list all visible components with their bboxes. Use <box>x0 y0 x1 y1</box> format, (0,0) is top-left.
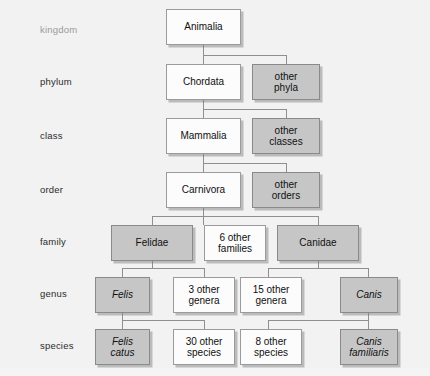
node-line1: Felis <box>112 289 133 300</box>
node-line2: species <box>187 347 221 358</box>
connector-genus-other-felidae-drop <box>204 268 205 277</box>
node-phylum-other[interactable]: other phyla <box>252 64 320 100</box>
connector-family-other-drop <box>203 216 204 225</box>
connector-canidae-bus <box>268 268 368 269</box>
node-line2: orders <box>272 190 300 201</box>
connector-genus-canis-drop <box>368 268 369 277</box>
connector-order-carnivora-drop <box>203 163 204 172</box>
node-line1: 30 other <box>186 336 223 347</box>
node-line1: Chordata <box>183 76 224 87</box>
connector-order-other-drop <box>286 163 287 172</box>
node-line1: other <box>275 179 298 190</box>
rank-label-phylum: phylum <box>40 76 72 87</box>
node-line1: Canidae <box>299 237 336 248</box>
rank-label-genus: genus <box>40 288 67 299</box>
connector-phylum-other-drop <box>286 55 287 64</box>
rank-label-kingdom: kingdom <box>40 24 77 35</box>
node-genus-felis[interactable]: Felis <box>95 277 150 313</box>
rank-label-family: family <box>40 236 66 247</box>
connector-phylum-chordata-drop <box>203 55 204 64</box>
node-species-canis-familiaris[interactable]: Canis familiaris <box>340 329 398 365</box>
connector-family-felidae-drop <box>152 216 153 225</box>
connector-order-bus <box>203 163 286 164</box>
node-line1: Canis <box>356 336 382 347</box>
node-family-felidae[interactable]: Felidae <box>111 225 193 261</box>
rank-label-species: species <box>40 340 74 351</box>
node-line1: Felis <box>112 336 133 347</box>
node-species-other-canis[interactable]: 8 other species <box>240 329 302 365</box>
connector-class-stem <box>203 154 204 163</box>
connector-canis-stem <box>368 313 369 320</box>
node-order-other[interactable]: other orders <box>252 172 320 208</box>
node-order-carnivora[interactable]: Carnivora <box>166 172 241 208</box>
node-line2: species <box>254 347 288 358</box>
rank-label-class: class <box>40 130 63 141</box>
connector-felidae-stem <box>152 261 153 268</box>
node-line1: other <box>275 125 298 136</box>
node-genus-other-felidae[interactable]: 3 other genera <box>173 277 235 313</box>
node-line1: Animalia <box>184 21 222 32</box>
connector-species-felis-catus-drop <box>122 320 123 329</box>
node-family-other[interactable]: 6 other families <box>204 225 266 261</box>
connector-felis-bus <box>122 320 204 321</box>
connector-kingdom-stem <box>203 45 204 55</box>
connector-family-canidae-drop <box>318 216 319 225</box>
node-line1: 3 other <box>188 284 219 295</box>
node-line2: families <box>218 243 252 254</box>
node-phylum-chordata[interactable]: Chordata <box>166 64 241 100</box>
node-line1: Felidae <box>136 237 169 248</box>
connector-species-other-canis-drop <box>268 320 269 329</box>
connector-phylum-stem <box>203 100 204 109</box>
node-species-other-felis[interactable]: 30 other species <box>173 329 235 365</box>
connector-genus-other-canidae-drop <box>268 268 269 277</box>
connector-class-other-drop <box>286 109 287 118</box>
node-genus-other-canidae[interactable]: 15 other genera <box>240 277 302 313</box>
node-genus-canis[interactable]: Canis <box>340 277 398 313</box>
connector-felidae-bus <box>122 268 204 269</box>
node-line1: Canis <box>356 289 382 300</box>
connector-species-other-felis-drop <box>204 320 205 329</box>
connector-felis-stem <box>122 313 123 320</box>
node-species-felis-catus[interactable]: Felis catus <box>95 329 150 365</box>
connector-order-stem <box>203 208 204 216</box>
rank-label-order: order <box>40 184 63 195</box>
node-class-mammalia[interactable]: Mammalia <box>166 118 241 154</box>
connector-canis-bus <box>268 320 368 321</box>
node-family-canidae[interactable]: Canidae <box>277 225 359 261</box>
node-line1: other <box>275 71 298 82</box>
connector-genus-felis-drop <box>122 268 123 277</box>
node-line2: phyla <box>274 82 298 93</box>
connector-family-bus <box>152 216 318 217</box>
node-line1: 8 other <box>255 336 286 347</box>
node-line2: familiaris <box>349 347 388 358</box>
node-line2: classes <box>269 136 302 147</box>
connector-class-mammalia-drop <box>203 109 204 118</box>
connector-canidae-stem <box>318 261 319 268</box>
taxonomy-diagram: kingdom phylum class order family genus … <box>0 0 430 376</box>
node-line2: catus <box>111 347 135 358</box>
node-line1: Carnivora <box>182 184 225 195</box>
node-kingdom-animalia[interactable]: Animalia <box>166 9 241 45</box>
node-class-other[interactable]: other classes <box>252 118 320 154</box>
node-line1: 15 other <box>253 284 290 295</box>
node-line1: Mammalia <box>180 130 226 141</box>
node-line2: genera <box>255 295 286 306</box>
connector-species-canis-familiaris-drop <box>368 320 369 329</box>
connector-class-bus <box>203 109 286 110</box>
connector-phylum-bus <box>203 55 286 56</box>
node-line1: 6 other <box>219 232 250 243</box>
node-line2: genera <box>188 295 219 306</box>
